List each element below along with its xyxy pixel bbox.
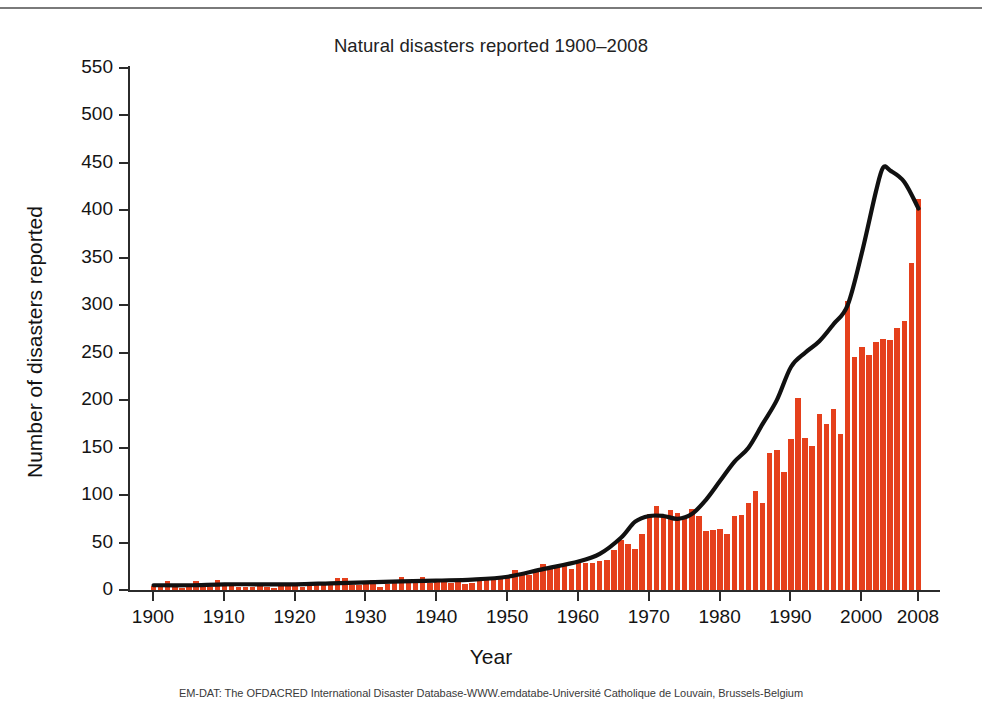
y-tick-label: 50 bbox=[92, 531, 113, 553]
bar bbox=[179, 588, 185, 590]
bar bbox=[817, 414, 823, 590]
bar bbox=[753, 491, 759, 590]
y-tick-label: 450 bbox=[81, 151, 113, 173]
bar bbox=[647, 514, 653, 590]
y-tick: 50 bbox=[119, 542, 128, 544]
x-axis-label: Year bbox=[0, 645, 982, 669]
y-tick-label: 100 bbox=[81, 483, 113, 505]
x-tick-label: 2008 bbox=[897, 606, 939, 628]
bar bbox=[264, 587, 270, 590]
bar bbox=[215, 580, 221, 590]
x-tick bbox=[364, 592, 366, 601]
bar bbox=[859, 347, 865, 590]
x-tick bbox=[789, 592, 791, 601]
bar bbox=[193, 581, 199, 590]
bar bbox=[788, 439, 794, 590]
bar bbox=[802, 438, 808, 590]
bar bbox=[661, 517, 667, 590]
bar bbox=[519, 573, 525, 590]
bar bbox=[363, 581, 369, 590]
bar bbox=[852, 357, 858, 590]
bar bbox=[512, 570, 518, 590]
bar bbox=[455, 582, 461, 590]
bar bbox=[186, 587, 192, 590]
bar bbox=[887, 340, 893, 590]
x-tick bbox=[435, 592, 437, 601]
bar bbox=[809, 446, 815, 590]
bar bbox=[207, 587, 213, 590]
bar bbox=[342, 578, 348, 590]
chart-title: Natural disasters reported 1900–2008 bbox=[0, 35, 982, 57]
bar bbox=[314, 583, 320, 590]
bar bbox=[484, 577, 490, 590]
source-caption: EM-DAT: The OFDACRED International Disas… bbox=[0, 687, 982, 699]
y-tick-label: 350 bbox=[81, 246, 113, 268]
bar bbox=[639, 534, 645, 590]
bar bbox=[760, 503, 766, 590]
x-tick-label: 1900 bbox=[132, 606, 174, 628]
bar bbox=[151, 586, 157, 590]
bar bbox=[569, 569, 575, 590]
x-tick bbox=[506, 592, 508, 601]
bar bbox=[427, 583, 433, 590]
plot-area: 050100150200250300350400450500550 190019… bbox=[128, 66, 940, 592]
bar bbox=[356, 585, 362, 590]
bar bbox=[399, 577, 405, 590]
bar bbox=[540, 564, 546, 590]
y-tick: 500 bbox=[119, 114, 128, 116]
x-tick bbox=[294, 592, 296, 601]
bar bbox=[406, 581, 412, 590]
bar bbox=[767, 453, 773, 590]
bar bbox=[654, 506, 660, 590]
bar bbox=[845, 301, 851, 590]
x-tick bbox=[860, 592, 862, 601]
bar bbox=[292, 586, 298, 590]
bar bbox=[385, 584, 391, 590]
bar bbox=[625, 544, 631, 591]
bar bbox=[158, 587, 164, 590]
bar bbox=[420, 577, 426, 590]
bar bbox=[307, 585, 313, 590]
x-tick bbox=[719, 592, 721, 601]
bar bbox=[477, 579, 483, 590]
bar bbox=[533, 571, 539, 590]
x-tick-label: 1920 bbox=[274, 606, 316, 628]
bar bbox=[505, 577, 511, 590]
bar bbox=[739, 515, 745, 590]
bar bbox=[243, 587, 249, 590]
bar bbox=[200, 585, 206, 590]
y-tick-label: 500 bbox=[81, 103, 113, 125]
bar bbox=[576, 561, 582, 590]
bar bbox=[469, 583, 475, 590]
y-tick-label: 200 bbox=[81, 388, 113, 410]
x-tick-label: 1950 bbox=[486, 606, 528, 628]
bar bbox=[916, 199, 922, 590]
y-tick: 300 bbox=[119, 304, 128, 306]
x-tick-label: 1980 bbox=[698, 606, 740, 628]
y-tick-label: 250 bbox=[81, 341, 113, 363]
y-tick: 350 bbox=[119, 257, 128, 259]
bar bbox=[838, 434, 844, 590]
y-tick: 100 bbox=[119, 494, 128, 496]
bar bbox=[909, 263, 915, 590]
y-tick-label: 150 bbox=[81, 436, 113, 458]
bar bbox=[257, 586, 263, 590]
y-tick-label: 400 bbox=[81, 198, 113, 220]
bar bbox=[583, 563, 589, 590]
bar bbox=[732, 516, 738, 590]
x-tick-label: 1940 bbox=[415, 606, 457, 628]
bar bbox=[597, 561, 603, 590]
bar bbox=[229, 585, 235, 590]
bar bbox=[611, 550, 617, 590]
y-tick-label: 0 bbox=[102, 578, 113, 600]
x-tick bbox=[152, 592, 154, 601]
y-tick: 200 bbox=[119, 399, 128, 401]
x-tick-label: 1970 bbox=[628, 606, 670, 628]
x-tick bbox=[648, 592, 650, 601]
bar bbox=[462, 584, 468, 590]
bar bbox=[250, 587, 256, 590]
x-tick-label: 1990 bbox=[769, 606, 811, 628]
bar bbox=[724, 534, 730, 590]
bar bbox=[271, 588, 277, 590]
bar bbox=[448, 583, 454, 590]
